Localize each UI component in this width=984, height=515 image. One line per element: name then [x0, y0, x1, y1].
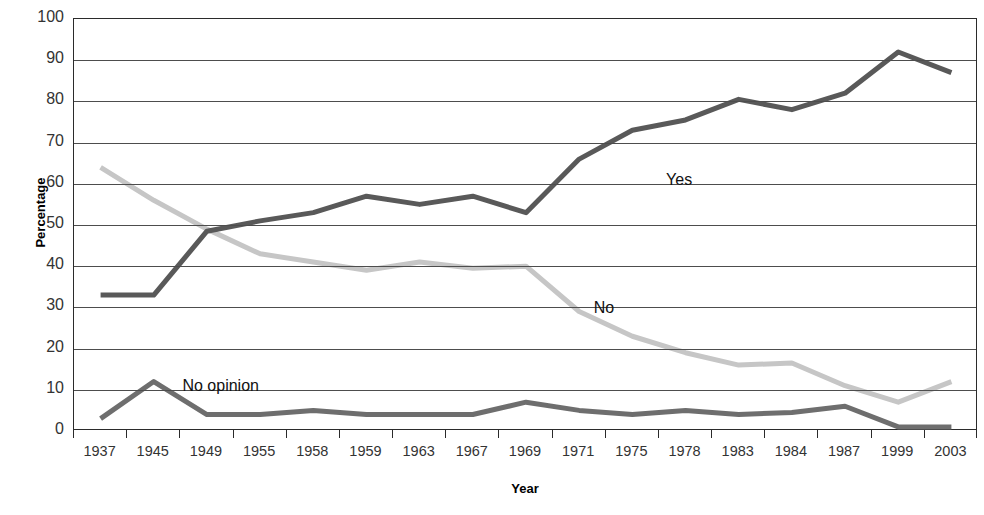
series-line-no [101, 167, 952, 402]
y-tick-label: 30 [24, 297, 64, 313]
x-tick [605, 430, 606, 438]
x-tick-label: 1987 [814, 443, 874, 459]
x-tick-label: 1967 [442, 443, 502, 459]
y-tick-label: 80 [24, 91, 64, 107]
gridline [74, 101, 976, 102]
x-tick-label: 1999 [867, 443, 927, 459]
y-tick-label: 100 [24, 9, 64, 25]
x-tick [445, 430, 446, 438]
x-axis-tick-labels: 1937194519491955195819591963196719691971… [73, 443, 977, 465]
y-tick-label: 40 [24, 256, 64, 272]
series-label-no: No [594, 299, 614, 317]
plot-area: YesNoNo opinion [73, 18, 977, 430]
y-tick-label: 20 [24, 339, 64, 355]
x-tick-label: 1937 [70, 443, 130, 459]
x-axis-ticks [73, 430, 977, 439]
x-tick [179, 430, 180, 438]
x-tick [392, 430, 393, 438]
line-chart: Percentage 1009080706050403020100 YesNoN… [0, 0, 984, 515]
x-tick-label: 1963 [389, 443, 449, 459]
y-tick-label: 90 [24, 50, 64, 66]
gridline [74, 349, 976, 350]
y-tick-label: 50 [24, 215, 64, 231]
x-tick [286, 430, 287, 438]
x-tick [552, 430, 553, 438]
y-tick-label: 60 [24, 174, 64, 190]
x-tick-label: 1945 [123, 443, 183, 459]
gridline [74, 143, 976, 144]
x-tick-label: 1958 [282, 443, 342, 459]
x-tick [233, 430, 234, 438]
x-tick-label: 1959 [335, 443, 395, 459]
x-tick [711, 430, 712, 438]
x-tick-label: 1984 [761, 443, 821, 459]
x-tick-label: 1969 [495, 443, 555, 459]
x-tick [817, 430, 818, 438]
gridline [74, 60, 976, 61]
x-tick-label: 1949 [176, 443, 236, 459]
x-tick-label: 1983 [708, 443, 768, 459]
y-axis-tick-labels: 1009080706050403020100 [20, 0, 64, 450]
x-tick [924, 430, 925, 438]
gridline [74, 266, 976, 267]
x-tick-label: 1978 [655, 443, 715, 459]
x-tick-label: 2003 [920, 443, 980, 459]
gridline [74, 225, 976, 226]
x-tick [871, 430, 872, 438]
x-tick-label: 1955 [229, 443, 289, 459]
series-line-yes [101, 52, 952, 295]
x-tick [498, 430, 499, 438]
y-tick-label: 70 [24, 133, 64, 149]
y-tick-label: 0 [24, 421, 64, 437]
x-tick [976, 430, 977, 438]
x-tick-label: 1971 [548, 443, 608, 459]
gridline [74, 184, 976, 185]
x-tick [764, 430, 765, 438]
gridline [74, 307, 976, 308]
x-tick [126, 430, 127, 438]
x-tick [658, 430, 659, 438]
x-tick [73, 430, 74, 438]
series-label-no-opinion: No opinion [182, 377, 259, 395]
x-tick [339, 430, 340, 438]
x-axis-title: Year [73, 481, 977, 496]
series-label-yes: Yes [666, 171, 692, 189]
x-tick-label: 1975 [601, 443, 661, 459]
y-tick-label: 10 [24, 380, 64, 396]
